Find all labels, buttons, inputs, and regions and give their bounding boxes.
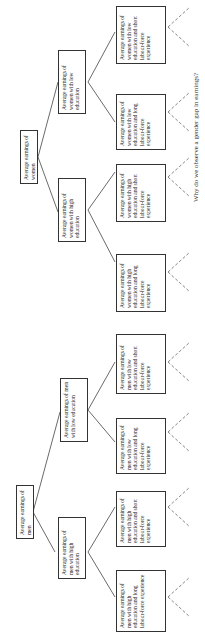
- node-women-low-education: Average earnings of women with low educa…: [58, 50, 86, 114]
- node-women-high-education: Average earnings of women with high educ…: [58, 178, 86, 242]
- node-women-low-short: Average earnings of women with low educa…: [116, 6, 166, 64]
- node-women-high-long: Average earnings of women with high educ…: [116, 254, 166, 312]
- node-women-high-short: Average earnings of women with high educ…: [116, 164, 166, 222]
- node-women: Average earnings of women: [20, 130, 38, 184]
- connector-lines: [0, 0, 205, 642]
- node-men-high-short: Average earnings of men with high educat…: [116, 491, 166, 547]
- node-men-low-education: Average earnings of men with low educati…: [60, 378, 88, 442]
- node-men-high-long: Average earnings of men with high educat…: [116, 570, 166, 632]
- node-men-high-education: Average earnings of men with high educat…: [58, 517, 86, 579]
- tree-diagram: Average earnings of men Average earnings…: [0, 0, 205, 642]
- node-women-low-long: Average earnings of women with low educa…: [116, 94, 166, 150]
- node-men: Average earnings of men: [16, 485, 34, 539]
- node-men-low-short: Average earnings of men with low educati…: [116, 334, 166, 394]
- node-men-low-long: Average earnings of men with low educati…: [116, 418, 166, 474]
- figure-caption: Why do we observe a gender gap in earnin…: [192, 73, 200, 202]
